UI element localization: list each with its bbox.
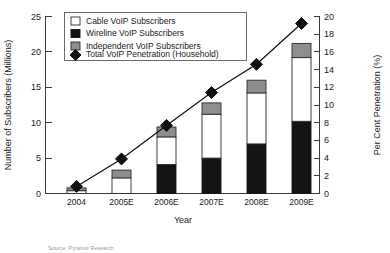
bar-segment-cable[interactable] — [157, 137, 176, 165]
left-tick-15: 15 — [31, 82, 52, 92]
legend-item-penetration[interactable]: Total VoIP Penetration (Household) — [70, 49, 219, 60]
right-tick-8: 8 — [314, 118, 330, 128]
right-tick-6: 6 — [314, 135, 330, 145]
voip-subscribers-chart: 0 5 10 15 20 25 — [0, 0, 390, 253]
x-tick-label-2006e: 2006E — [154, 197, 179, 207]
x-axis-category-labels: 2004 2005E 2006E 2007E 2008E 2009E — [67, 197, 314, 207]
bar-segment-cable[interactable] — [202, 114, 221, 158]
left-tick-10: 10 — [31, 118, 52, 128]
x-tick-label-2009e: 2009E — [289, 197, 314, 207]
y-axis-title-right: Per Cent Penetration (%) — [372, 55, 382, 156]
bar-segment-cable[interactable] — [112, 178, 131, 194]
y-axis-title-left: Number of Subscribers (Millions) — [3, 40, 13, 171]
right-tick-label: 20 — [324, 12, 334, 22]
penetration-marker-2005e[interactable] — [116, 153, 128, 165]
bar-segment-independent[interactable] — [202, 103, 221, 114]
left-tick-label: 10 — [31, 118, 41, 128]
right-tick-12: 12 — [314, 82, 335, 92]
right-tick-10: 10 — [314, 100, 335, 110]
left-axis-ticks: 0 5 10 15 20 25 — [31, 12, 52, 199]
left-tick-label: 15 — [31, 82, 41, 92]
legend-item-cable[interactable]: Cable VoIP Subscribers — [71, 16, 176, 26]
left-tick-5: 5 — [36, 153, 52, 163]
legend-label: Total VoIP Penetration (Household) — [86, 49, 219, 59]
right-tick-label: 6 — [324, 135, 329, 145]
right-tick-20: 20 — [314, 12, 335, 22]
x-tick-label-2004: 2004 — [67, 197, 86, 207]
wireline-swatch-icon — [71, 30, 80, 38]
chart-legend: Cable VoIP Subscribers Wireline VoIP Sub… — [65, 13, 247, 61]
bar-series-group — [67, 43, 311, 193]
x-tick-label-2008e: 2008E — [244, 197, 269, 207]
source-note: Source: Pyramid Research — [48, 245, 114, 251]
bar-segment-independent[interactable] — [247, 80, 266, 93]
bar-segment-wireline[interactable] — [292, 121, 311, 193]
right-tick-label: 14 — [324, 65, 334, 75]
x-axis-title: Year — [174, 215, 192, 225]
bar-group-2006e[interactable] — [157, 127, 176, 194]
right-tick-4: 4 — [314, 153, 330, 163]
right-tick-2: 2 — [314, 171, 330, 181]
bar-segment-cable[interactable] — [292, 58, 311, 122]
right-tick-label: 12 — [324, 82, 334, 92]
bar-segment-independent[interactable] — [292, 43, 311, 57]
x-tick-label-2005e: 2005E — [109, 197, 134, 207]
left-tick-label: 25 — [31, 12, 41, 22]
right-tick-16: 16 — [314, 47, 335, 57]
bar-segment-wireline[interactable] — [157, 165, 176, 194]
right-tick-0: 0 — [314, 189, 330, 199]
legend-item-wireline[interactable]: Wireline VoIP Subscribers — [71, 28, 184, 38]
x-tick-label-2007e: 2007E — [199, 197, 224, 207]
bar-segment-wireline[interactable] — [202, 158, 221, 193]
bar-group-2009e[interactable] — [292, 43, 311, 193]
bar-group-2007e[interactable] — [202, 103, 221, 194]
legend-label: Wireline VoIP Subscribers — [86, 28, 184, 38]
right-tick-label: 0 — [324, 189, 329, 199]
right-axis-ticks: 0 2 4 6 8 10 1 — [314, 12, 335, 199]
right-tick-label: 2 — [324, 171, 329, 181]
bar-segment-cable[interactable] — [247, 93, 266, 144]
left-tick-label: 20 — [31, 47, 41, 57]
left-tick-20: 20 — [31, 47, 52, 57]
cable-swatch-icon — [71, 17, 80, 25]
right-tick-label: 4 — [324, 153, 329, 163]
bar-group-2005e[interactable] — [112, 170, 131, 193]
left-tick-0: 0 — [36, 189, 52, 199]
bar-group-2008e[interactable] — [247, 80, 266, 193]
penetration-marker-2007e[interactable] — [206, 87, 218, 99]
left-tick-25: 25 — [31, 12, 52, 22]
right-tick-label: 16 — [324, 47, 334, 57]
right-tick-label: 10 — [324, 100, 334, 110]
chart-container: 0 5 10 15 20 25 — [0, 0, 390, 253]
right-tick-14: 14 — [314, 65, 335, 75]
bar-segment-independent[interactable] — [112, 170, 131, 178]
bar-segment-wireline[interactable] — [247, 144, 266, 194]
left-tick-label: 5 — [36, 153, 41, 163]
left-tick-label: 0 — [36, 189, 41, 199]
right-tick-18: 18 — [314, 29, 335, 39]
right-tick-label: 8 — [324, 118, 329, 128]
right-tick-label: 18 — [324, 29, 334, 39]
legend-label: Cable VoIP Subscribers — [86, 16, 176, 26]
